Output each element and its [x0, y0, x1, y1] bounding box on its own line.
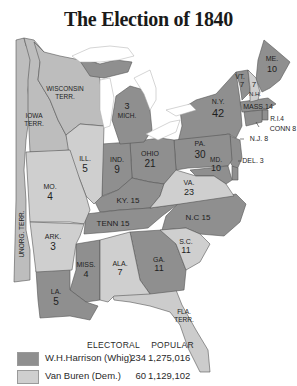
legend-header: ELECTORAL POPULAR: [87, 340, 194, 350]
label-fla-2: TERR.: [174, 316, 194, 323]
label-ga: GA.: [153, 256, 165, 263]
label-md: MD.: [210, 156, 222, 163]
label-nc: N.C 15: [186, 213, 211, 222]
label-iowa-2: TERR.: [24, 120, 44, 127]
legend-electoral: 234: [126, 352, 146, 363]
label-ark-ev: 3: [50, 241, 56, 252]
label-pa: PA.: [195, 140, 206, 147]
legend-col-electoral: ELECTORAL: [87, 340, 140, 350]
label-la-ev: 5: [53, 296, 59, 307]
label-ri: R.I.4: [270, 115, 284, 122]
label-sc: S.C.: [179, 238, 193, 245]
label-ind-ev: 9: [114, 164, 120, 175]
label-ala-ev: 7: [117, 267, 122, 277]
label-ny-ev: 42: [212, 107, 224, 119]
legend-col-popular: POPULAR: [151, 340, 194, 350]
label-nh: N.H.: [249, 91, 261, 97]
label-conn: CONN 8: [270, 125, 297, 132]
legend-swatch-democrat: [17, 370, 39, 384]
label-mo: MO.: [43, 183, 56, 190]
label-nj: N.J. 8: [250, 135, 268, 142]
label-sc-ev: 11: [181, 245, 190, 255]
legend-electoral: 60: [126, 370, 146, 381]
label-miss-ev: 4: [83, 269, 88, 279]
label-ga-ev: 11: [154, 263, 163, 273]
label-ohio-ev: 21: [144, 158, 156, 169]
label-iowa-1: IOWA: [25, 112, 43, 119]
label-mo-ev: 4: [47, 191, 53, 202]
label-wisc-2: TERR.: [55, 93, 75, 100]
label-tenn: TENN 15: [97, 219, 130, 228]
state-connecticut: [244, 110, 262, 126]
label-md-ev: 10: [211, 163, 221, 173]
legend-candidate: Van Buren (Dem.): [45, 370, 121, 381]
label-mich: MICH.: [118, 112, 137, 119]
label-ind: IND.: [110, 156, 124, 163]
label-ark: ARK.: [45, 233, 61, 240]
state-rhode-island: [262, 110, 268, 120]
legend-popular: 1,275,016: [148, 352, 190, 363]
label-ohio: OHIO: [141, 150, 159, 157]
label-del: DEL. 3: [242, 157, 264, 164]
label-unorg: UNORG. TERR.: [18, 210, 25, 257]
label-ill: ILL.: [79, 155, 91, 162]
label-ny: N.Y.: [212, 98, 225, 105]
label-ill-ev: 5: [82, 163, 88, 174]
label-la: LA.: [51, 288, 62, 295]
legend-swatch-whig: [17, 352, 39, 366]
label-wisc-1: WISCONSIN: [46, 85, 84, 92]
label-vt: VT.: [235, 73, 245, 80]
label-pa-ev: 30: [194, 149, 206, 160]
label-mass: MASS.14: [243, 103, 273, 110]
legend-candidate: W.H.Harrison (Whig): [45, 352, 132, 363]
election-map: ME. 10 VT. 7 7 N.H. MASS.14 R.I.4 CONN 8…: [0, 0, 297, 386]
label-va-ev: 23: [184, 187, 194, 197]
label-mich-ev: 3: [124, 101, 129, 111]
label-me: ME.: [266, 55, 279, 62]
lake-superior: [72, 46, 134, 62]
legend-popular: 1,129,102: [148, 370, 190, 381]
label-vt-ev: 7: [240, 80, 245, 89]
label-va: VA.: [184, 179, 195, 186]
label-ky: KY. 15: [117, 196, 141, 205]
label-ala: ALA.: [112, 260, 127, 267]
label-fla-1: FLA.: [177, 308, 191, 315]
state-delaware: [232, 166, 238, 180]
label-nh-ev: 7: [252, 80, 257, 89]
label-me-ev: 10: [267, 64, 277, 74]
label-miss: MISS.: [76, 261, 95, 268]
